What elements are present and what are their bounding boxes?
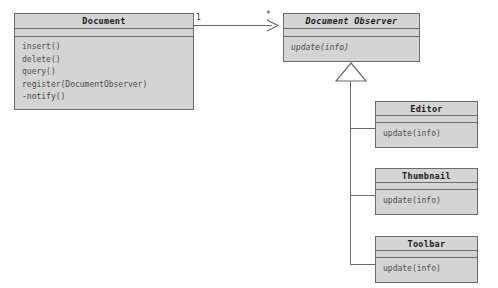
class-operations-compartment-toolbar: update(info)	[376, 258, 477, 282]
class-title-thumbnail: Thumbnail	[376, 169, 477, 183]
operation-item: update(info)	[383, 195, 477, 206]
class-title-editor: Editor	[376, 102, 477, 116]
multiplicity-target: *	[266, 10, 271, 19]
class-attributes-compartment-document	[15, 29, 193, 37]
class-title-toolbar: Toolbar	[376, 237, 477, 251]
class-title-document: Document	[15, 14, 193, 29]
operation-item: register(DocumentObserver)	[22, 79, 193, 92]
uml-class-diagram: Document insert() delete() query() regis…	[0, 0, 498, 288]
operation-item: query()	[22, 66, 193, 79]
class-operations-compartment-document: insert() delete() query() register(Docum…	[15, 37, 193, 109]
generalization-branch-toolbar	[350, 264, 376, 265]
class-attributes-compartment-thumbnail	[376, 183, 477, 190]
operation-item: delete()	[22, 54, 193, 67]
class-box-toolbar[interactable]: Toolbar update(info)	[375, 236, 478, 283]
class-title-document-observer: Document Observer	[284, 14, 419, 29]
operation-item: update(info)	[291, 42, 419, 53]
class-attributes-compartment-document-observer	[284, 29, 419, 37]
operation-item: update(info)	[383, 128, 477, 139]
operation-item: -notify()	[22, 91, 193, 104]
class-attributes-compartment-editor	[376, 116, 477, 123]
class-operations-compartment-thumbnail: update(info)	[376, 190, 477, 214]
class-operations-compartment-document-observer: update(info)	[284, 37, 419, 61]
generalization-trunk-line	[350, 81, 351, 265]
class-box-document-observer[interactable]: Document Observer update(info)	[283, 13, 420, 62]
class-box-document[interactable]: Document insert() delete() query() regis…	[14, 13, 194, 110]
operation-item: insert()	[22, 41, 193, 54]
association-line	[194, 25, 272, 26]
open-arrow-icon	[264, 17, 281, 34]
multiplicity-source: 1	[196, 13, 201, 22]
generalization-branch-thumbnail	[350, 195, 376, 196]
operation-item: update(info)	[383, 263, 477, 274]
class-box-thumbnail[interactable]: Thumbnail update(info)	[375, 168, 478, 215]
generalization-branch-editor	[350, 128, 376, 129]
hollow-triangle-icon	[335, 62, 367, 82]
class-attributes-compartment-toolbar	[376, 251, 477, 258]
class-box-editor[interactable]: Editor update(info)	[375, 101, 478, 148]
class-operations-compartment-editor: update(info)	[376, 123, 477, 147]
